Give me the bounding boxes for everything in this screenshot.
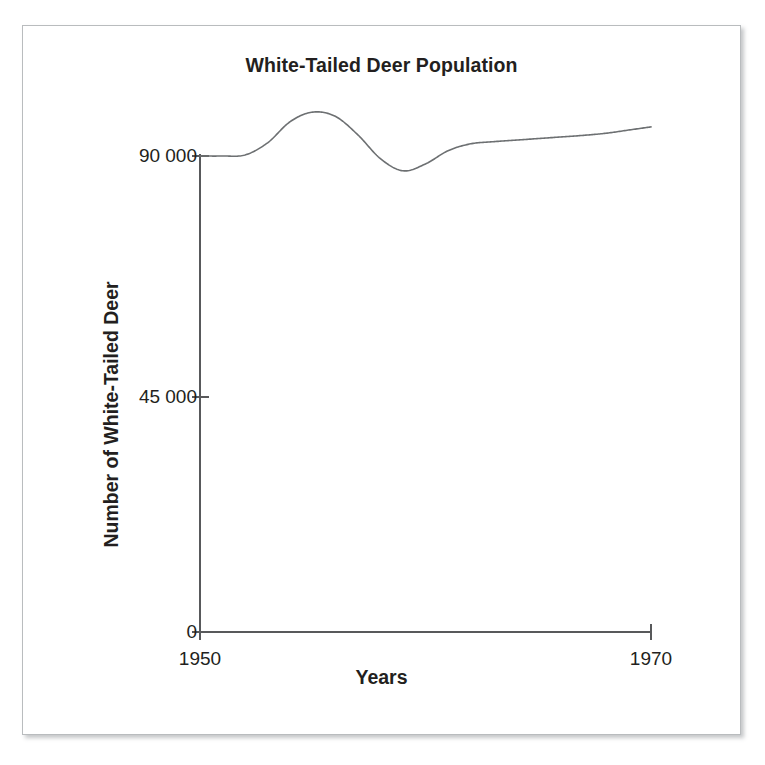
- y-axis-title: Number of White-Tailed Deer: [100, 245, 123, 585]
- y-axis-tick-label-90000: 90 000: [139, 145, 197, 167]
- y-axis-tick-label-0: 0: [186, 621, 197, 643]
- line-chart-plot: [23, 26, 742, 736]
- figure-card: White-Tailed Deer Population 90 000 45: [22, 25, 741, 735]
- data-series-line: [200, 112, 651, 171]
- figure-page: White-Tailed Deer Population 90 000 45: [0, 0, 765, 765]
- y-axis-tick-label-45000: 45 000: [139, 386, 197, 408]
- x-axis-title: Years: [23, 666, 740, 689]
- chart-canvas: [23, 26, 742, 736]
